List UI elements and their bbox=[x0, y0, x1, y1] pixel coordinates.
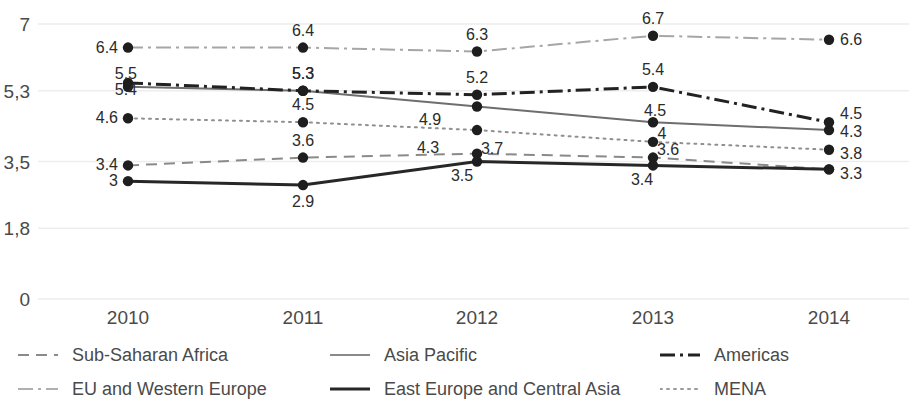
data-point-label: 4.5 bbox=[273, 97, 333, 113]
y-axis-tick-label: 5,3 bbox=[0, 82, 30, 101]
data-point-label: 4.6 bbox=[58, 110, 118, 126]
data-point-label: 5.2 bbox=[447, 70, 507, 86]
legend-item-east-europe-and-central-asia[interactable]: East Europe and Central Asia bbox=[330, 378, 620, 400]
data-point-label: 4.9 bbox=[400, 112, 460, 128]
legend-line-icon bbox=[660, 383, 700, 395]
data-point-label: 3 bbox=[58, 173, 118, 189]
x-axis-tick-label: 2011 bbox=[263, 308, 343, 327]
data-point-marker bbox=[472, 125, 482, 135]
y-axis-tick-label: 3,5 bbox=[0, 153, 30, 172]
data-point-marker bbox=[648, 160, 658, 170]
data-point-marker bbox=[123, 176, 133, 186]
data-point-label: 3.3 bbox=[840, 166, 862, 182]
legend-item-eu-and-western-europe[interactable]: EU and Western Europe bbox=[18, 378, 267, 400]
legend-item-asia-pacific[interactable]: Asia Pacific bbox=[330, 344, 477, 366]
legend-label: MENA bbox=[714, 380, 766, 398]
data-point-label: 4.3 bbox=[840, 124, 862, 140]
legend-label: Americas bbox=[714, 346, 789, 364]
x-axis-tick-label: 2013 bbox=[613, 308, 693, 327]
data-point-label: 5.3 bbox=[273, 66, 333, 82]
data-point-label: 3.8 bbox=[840, 146, 862, 162]
data-point-label: 6.4 bbox=[273, 23, 333, 39]
legend-item-americas[interactable]: Americas bbox=[660, 344, 789, 366]
data-point-marker bbox=[298, 180, 308, 190]
data-point-marker bbox=[824, 164, 834, 174]
data-point-label: 4.3 bbox=[398, 140, 458, 156]
legend-label: East Europe and Central Asia bbox=[384, 380, 620, 398]
data-point-marker bbox=[824, 145, 834, 155]
data-point-label: 3.7 bbox=[462, 141, 522, 157]
data-point-label: 4 bbox=[632, 126, 692, 142]
x-axis-tick-label: 2012 bbox=[437, 308, 517, 327]
x-axis-tick-label: 2014 bbox=[789, 308, 869, 327]
data-point-marker bbox=[123, 113, 133, 123]
data-point-label: 6.3 bbox=[447, 27, 507, 43]
data-point-label: 3.5 bbox=[432, 168, 492, 184]
data-point-label: 3.6 bbox=[638, 142, 698, 158]
data-point-marker bbox=[472, 90, 482, 100]
data-point-marker bbox=[472, 46, 482, 56]
data-point-label: 3.4 bbox=[612, 172, 672, 188]
legend-item-sub-saharan-africa[interactable]: Sub-Saharan Africa bbox=[18, 344, 228, 366]
data-point-marker bbox=[123, 160, 133, 170]
x-axis-tick-label: 2010 bbox=[88, 308, 168, 327]
data-point-marker bbox=[123, 42, 133, 52]
data-point-label: 3.6 bbox=[273, 133, 333, 149]
chart-legend: Sub-Saharan AfricaAsia PacificAmericasEU… bbox=[0, 340, 909, 419]
data-point-marker bbox=[472, 101, 482, 111]
data-point-label: 4.5 bbox=[840, 106, 862, 122]
legend-line-icon bbox=[330, 349, 370, 361]
legend-line-icon bbox=[18, 383, 58, 395]
data-point-marker bbox=[824, 117, 834, 127]
data-point-label: 4.5 bbox=[625, 103, 685, 119]
data-point-label: 6.4 bbox=[58, 40, 118, 56]
data-point-marker bbox=[648, 31, 658, 41]
data-point-marker bbox=[824, 35, 834, 45]
data-point-marker bbox=[298, 42, 308, 52]
data-point-marker bbox=[298, 86, 308, 96]
legend-label: Sub-Saharan Africa bbox=[72, 346, 228, 364]
legend-item-mena[interactable]: MENA bbox=[660, 378, 766, 400]
data-point-label: 5.4 bbox=[623, 62, 683, 78]
data-point-marker bbox=[648, 82, 658, 92]
data-point-label: 6.7 bbox=[623, 11, 683, 27]
data-point-label: 5.4 bbox=[77, 82, 137, 98]
data-point-label: 3.4 bbox=[58, 157, 118, 173]
legend-label: Asia Pacific bbox=[384, 346, 477, 364]
legend-line-icon bbox=[660, 349, 700, 361]
y-axis-tick-label: 7 bbox=[0, 15, 30, 34]
legend-line-icon bbox=[18, 349, 58, 361]
y-axis-tick-label: 1,8 bbox=[0, 219, 30, 238]
data-point-label: 6.6 bbox=[840, 32, 862, 48]
line-chart: 75,33,51,80 20102011201220132014 3.43.63… bbox=[0, 0, 909, 419]
y-axis-tick-label: 0 bbox=[0, 290, 30, 309]
legend-line-icon bbox=[330, 383, 370, 395]
data-point-marker bbox=[298, 152, 308, 162]
legend-label: EU and Western Europe bbox=[72, 380, 267, 398]
data-point-label: 5.5 bbox=[77, 66, 137, 82]
data-point-label: 2.9 bbox=[273, 194, 333, 210]
data-point-marker bbox=[472, 156, 482, 166]
data-point-marker bbox=[298, 117, 308, 127]
